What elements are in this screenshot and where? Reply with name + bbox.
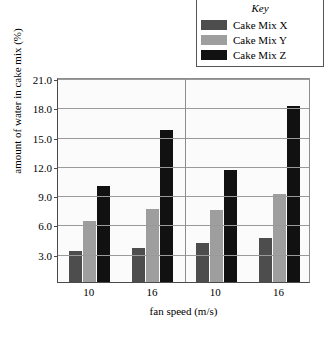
y-axis-tick-mark (54, 226, 58, 227)
y-axis-tick-label: 3.0 (38, 250, 52, 262)
legend: Key Cake Mix X Cake Mix Y Cake Mix Z (196, 0, 324, 67)
y-axis-tick-label: 15.0 (33, 133, 52, 145)
y-axis-tick-label: 21.0 (33, 74, 52, 86)
bars-layer (58, 79, 309, 282)
legend-item-label: Cake Mix X (233, 19, 287, 31)
legend-swatch-icon (201, 20, 227, 30)
x-axis-tick-label: 10 (210, 286, 221, 298)
y-axis-title: amount of water in cake mix (%) (11, 1, 23, 201)
y-axis-tick-label: 9.0 (38, 191, 52, 203)
legend-swatch-icon (201, 50, 227, 60)
x-axis-title: fan speed (m/s) (57, 305, 310, 317)
y-axis-tick-label: 18.0 (33, 103, 52, 115)
legend-item-label: Cake Mix Y (233, 34, 287, 46)
x-axis-tick-label: 16 (273, 286, 284, 298)
group-divider (185, 79, 186, 282)
y-gridline: 3.0 (58, 255, 309, 256)
legend-title: Key (201, 2, 319, 15)
plot-area: 3.06.09.012.015.018.021.0 (57, 78, 310, 283)
y-gridline: 6.0 (58, 225, 309, 226)
y-axis-tick-mark (54, 197, 58, 198)
x-axis-tick-label: 16 (146, 286, 157, 298)
bar-cake-mix-y-group-1 (83, 221, 96, 282)
legend-item-cake-mix-x: Cake Mix X (201, 17, 319, 32)
bar-cake-mix-x-group-3 (196, 243, 209, 282)
y-gridline: 18.0 (58, 108, 309, 109)
bar-cake-mix-x-group-2 (132, 248, 145, 282)
y-axis-tick-mark (54, 139, 58, 140)
bar-cake-mix-x-group-4 (259, 238, 272, 282)
legend-item-cake-mix-z: Cake Mix Z (201, 47, 319, 62)
y-axis-tick-label: 12.0 (33, 162, 52, 174)
legend-item-cake-mix-y: Cake Mix Y (201, 32, 319, 47)
bar-cake-mix-y-group-4 (273, 194, 286, 282)
bar-cake-mix-y-group-2 (146, 209, 159, 282)
bar-cake-mix-z-group-1 (97, 186, 110, 282)
y-gridline: 9.0 (58, 196, 309, 197)
y-gridline: 21.0 (58, 79, 309, 80)
y-gridline: 12.0 (58, 167, 309, 168)
y-gridline: 15.0 (58, 138, 309, 139)
y-axis-tick-mark (54, 168, 58, 169)
y-axis-tick-mark (54, 80, 58, 81)
legend-swatch-icon (201, 35, 227, 45)
y-axis-tick-mark (54, 109, 58, 110)
bar-cake-mix-y-group-3 (210, 210, 223, 282)
bar-cake-mix-z-group-2 (160, 130, 173, 282)
x-axis-tick-label: 10 (83, 286, 94, 298)
legend-item-label: Cake Mix Z (233, 49, 286, 61)
y-axis-tick-mark (54, 256, 58, 257)
y-axis-tick-label: 6.0 (38, 220, 52, 232)
